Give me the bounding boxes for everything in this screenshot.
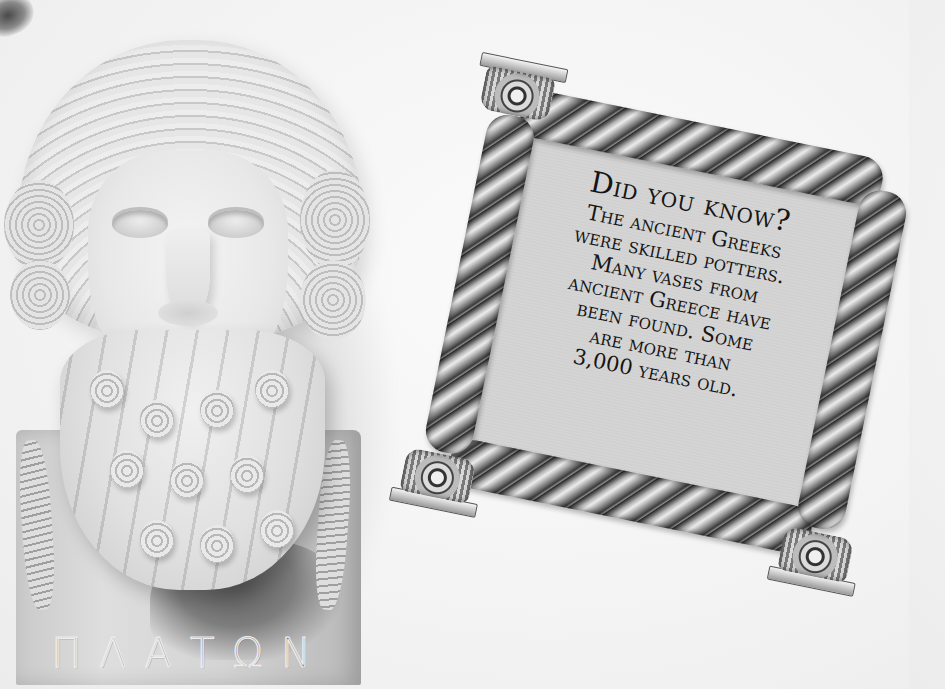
beard-curl <box>90 370 124 408</box>
beard-curl <box>200 390 234 428</box>
beard-curl <box>260 510 294 548</box>
beard-curl <box>140 400 174 438</box>
column-capital-icon <box>469 52 566 134</box>
right-eye <box>208 210 264 238</box>
hair-curl <box>300 170 370 270</box>
nose-tip <box>158 300 218 326</box>
did-you-know-frame: Did you know? The ancient Greeks were sk… <box>416 81 916 562</box>
hair-curl <box>300 260 366 340</box>
beard-curl <box>200 525 234 563</box>
bust-beard <box>60 330 325 590</box>
hair-curl <box>4 180 74 270</box>
bust-inscription: ΠΛΑΤΩΝ <box>30 630 350 676</box>
left-eye <box>112 210 168 238</box>
column-capital-icon <box>767 515 864 597</box>
beard-curl <box>170 460 204 498</box>
beard-curl <box>255 370 289 408</box>
beard-curl <box>110 450 144 488</box>
hair-curl <box>10 260 70 330</box>
beard-curl <box>230 455 264 493</box>
plato-bust-image: ΠΛΑΤΩΝ <box>0 30 400 689</box>
beard-curl <box>140 520 174 558</box>
